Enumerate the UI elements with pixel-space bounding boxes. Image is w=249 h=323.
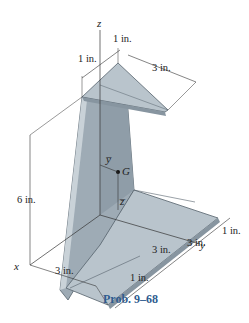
top-left-dim-label: 1 in.: [78, 53, 97, 64]
z-axis-label: z: [96, 17, 102, 29]
centroid-label: G: [122, 165, 130, 177]
angle-bracket-diagram: z y x G y̅ z̅ 6 in. 1 in. 1 in. 3 in. 3 …: [0, 0, 249, 323]
right-3b-dim-label: 3 in.: [152, 244, 171, 255]
top-width-dim-label: 3 in.: [152, 62, 171, 73]
right-3a-dim-label: 3 in.: [187, 237, 206, 248]
top-width-ext: [168, 82, 196, 110]
x-axis-label: x: [13, 260, 19, 272]
height-ext-top: [30, 97, 82, 135]
right-1b-dim-label: 1 in.: [130, 272, 149, 283]
figure-caption: Prob. 9–68: [103, 292, 158, 306]
bottom-x-dim-label: 3 in.: [55, 265, 74, 276]
top-right-dim-label: 1 in.: [113, 33, 132, 44]
right-1-dim-label: 1 in.: [222, 225, 241, 236]
height-dim-label: 6 in.: [17, 194, 36, 205]
